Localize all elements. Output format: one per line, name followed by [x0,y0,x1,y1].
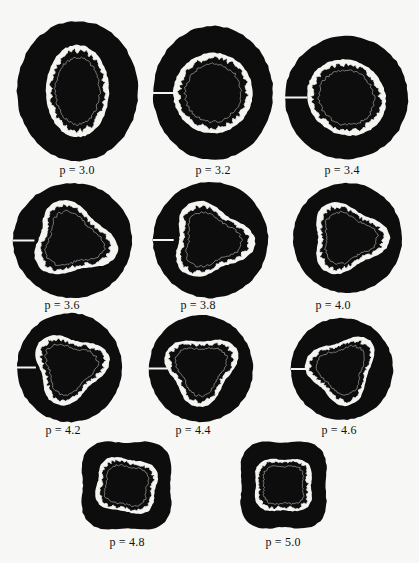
fractal-panel-p3-2 [153,26,273,160]
fractal-panel-p5 [237,438,330,532]
fractal-image [17,313,122,422]
fractal-panel-p4-6 [291,318,393,420]
panel-label-p5: p = 5.0 [265,535,300,550]
panel-label-p4-4: p = 4.4 [175,423,210,438]
fractal-panel-p4-2 [17,313,122,422]
fractal-panel-p3-8 [153,182,268,298]
fractal-image [153,26,273,160]
fractal-panel-p4-4 [149,315,253,422]
panel-label-p4-2: p = 4.2 [45,423,80,438]
branch-cut-line [149,368,168,370]
fractal-image [237,438,330,532]
panel-label-p4-8: p = 4.8 [109,535,144,550]
fractal-image [13,183,132,298]
branch-cut-line [285,97,307,99]
panel-label-p3-8: p = 3.8 [180,298,215,313]
fractal-panel-p3-4 [285,36,408,159]
fractal-image [285,36,408,159]
fractal-image [78,438,175,533]
panel-label-p4: p = 4.0 [315,298,350,313]
fractal-image [291,318,393,420]
fractal-panel-p3 [17,21,138,161]
fractal-panel-p4 [293,183,402,293]
panel-label-p3-4: p = 3.4 [324,163,359,178]
panel-label-p4-6: p = 4.6 [321,423,356,438]
branch-cut-line [291,368,309,370]
fractal-panel-p3-6 [13,183,132,298]
branch-cut-line [13,240,34,242]
fractal-panel-p4-8 [78,438,175,533]
fractal-image [149,315,253,422]
fractal-image [17,21,138,161]
branch-cut-line [153,92,175,94]
fractal-image [293,183,402,293]
branch-cut-line [153,239,174,241]
panel-label-p3-6: p = 3.6 [44,298,79,313]
panel-label-p3: p = 3.0 [59,163,94,178]
panel-label-p3-2: p = 3.2 [195,163,230,178]
fractal-image [153,182,268,298]
branch-cut-line [17,367,36,369]
